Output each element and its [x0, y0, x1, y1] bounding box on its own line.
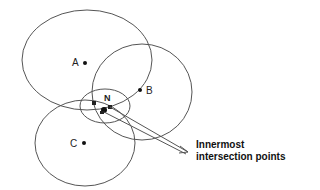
label-a: A: [72, 58, 79, 68]
annotation-caption: Innermost intersection points: [196, 139, 285, 163]
center-dot-b: [138, 88, 142, 92]
center-dot-a: [83, 61, 87, 65]
center-dot-c: [82, 141, 86, 145]
arrow-lines: [104, 107, 188, 154]
label-b: B: [146, 86, 153, 96]
annotation-line-2: intersection points: [196, 151, 285, 163]
label-n: N: [104, 94, 111, 103]
label-c: C: [70, 139, 77, 149]
circle-a: [22, 10, 152, 110]
annotation-line-1: Innermost: [196, 139, 285, 151]
